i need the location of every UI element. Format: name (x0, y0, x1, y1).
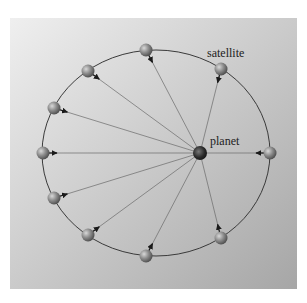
satellite-left-lower (48, 192, 61, 205)
planet (193, 146, 207, 160)
satellite-lower-left (82, 229, 95, 242)
satellite-right (264, 147, 277, 160)
satellite-lower-right (215, 232, 228, 245)
satellite-upper-left (82, 65, 95, 78)
satellite-upper-right (215, 63, 228, 76)
planet-label: planet (210, 134, 240, 148)
satellite-bottom (140, 250, 153, 263)
satellite-left (37, 147, 50, 160)
orbit-diagram: satellite planet (0, 0, 307, 303)
satellite-label: satellite (207, 46, 244, 60)
satellite-top (140, 44, 153, 57)
satellite-left-upper (48, 102, 61, 115)
